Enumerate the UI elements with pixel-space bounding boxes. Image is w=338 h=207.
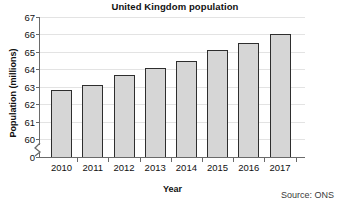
x-tick-mark	[171, 158, 172, 162]
gridline	[40, 87, 305, 88]
x-tick-mark	[296, 158, 297, 162]
x-axis-title: Year	[40, 184, 305, 194]
gridline	[40, 104, 305, 105]
x-tick-mark	[202, 158, 203, 162]
gridline	[40, 17, 305, 18]
bar	[51, 90, 72, 158]
bar	[238, 43, 259, 158]
source-annotation: Source: ONS	[281, 190, 334, 200]
bar	[145, 68, 166, 158]
x-tick-label: 2012	[113, 162, 134, 173]
x-tick-mark	[264, 158, 265, 162]
y-tick-label: 62	[24, 99, 35, 110]
bar-chart: United Kingdom population Population (mi…	[0, 0, 338, 207]
bar	[82, 85, 103, 158]
x-tick-label: 2010	[51, 162, 72, 173]
gridline	[40, 34, 305, 35]
x-tick-mark	[108, 158, 109, 162]
x-tick-label: 2016	[238, 162, 259, 173]
gridline	[40, 52, 305, 53]
x-tick-label: 2015	[207, 162, 228, 173]
y-tick-label: 60	[24, 134, 35, 145]
x-tick-label: 2013	[145, 162, 166, 173]
x-axis-line	[39, 157, 305, 158]
x-tick-mark	[233, 158, 234, 162]
bar	[207, 50, 228, 158]
y-axis-title: Population (millions)	[8, 18, 18, 168]
bar	[176, 61, 197, 158]
chart-title: United Kingdom population	[40, 1, 310, 12]
gridline	[40, 139, 305, 140]
bar	[270, 34, 291, 158]
x-tick-mark	[140, 158, 141, 162]
y-axis-line	[39, 17, 40, 145]
y-tick-label: 63	[24, 81, 35, 92]
gridline	[40, 122, 305, 123]
x-tick-mark	[77, 158, 78, 162]
gridline	[40, 69, 305, 70]
y-tick-label: 0	[30, 152, 35, 163]
x-tick-label: 2014	[176, 162, 197, 173]
x-tick-label: 2017	[269, 162, 290, 173]
y-tick-label: 65	[24, 46, 35, 57]
y-tick-label: 61	[24, 116, 35, 127]
x-tick-label: 2011	[83, 162, 103, 173]
y-tick-label: 67	[24, 12, 35, 23]
bar	[114, 75, 135, 158]
y-tick-label: 66	[24, 29, 35, 40]
plot-area: 06061626364656667 2010201120122013201420…	[40, 17, 305, 169]
y-tick-label: 64	[24, 64, 35, 75]
